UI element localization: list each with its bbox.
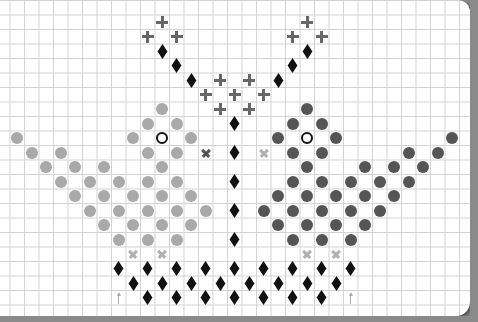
diamond-icon [228,204,242,218]
diamond-icon [155,276,169,290]
circle-light-icon [170,233,184,247]
circle-light-icon [170,146,184,160]
plus-icon [257,88,271,102]
circle-dark-icon [271,131,285,145]
circle-dark-icon [387,160,401,174]
diamond-icon [199,291,213,305]
cross-light-icon [126,247,140,261]
plus-icon [315,30,329,44]
diamond-icon [271,276,285,290]
circle-light-icon [155,189,169,203]
diamond-icon [228,262,242,276]
circle-light-icon [170,204,184,218]
circle-light-icon [141,204,155,218]
circle-dark-icon [358,189,372,203]
plus-icon [286,30,300,44]
circle-light-icon [68,160,82,174]
diamond-icon [257,262,271,276]
circle-dark-icon [329,131,343,145]
plus-icon [242,102,256,116]
circle-dark-icon [315,146,329,160]
diamond-icon [315,291,329,305]
diamond-icon [170,262,184,276]
plus-icon [141,30,155,44]
background-edge [470,0,478,322]
diamond-icon [141,262,155,276]
graph-paper-pattern [0,0,470,316]
arrow-up-icon [112,291,126,305]
circle-dark-icon [315,117,329,131]
circle-dark-icon [315,175,329,189]
circle-light-icon [126,189,140,203]
circle-light-icon [141,233,155,247]
circle-dark-icon [257,204,271,218]
circle-dark-icon [300,189,314,203]
background-edge-bottom [0,316,478,322]
circle-dark-icon [344,175,358,189]
circle-dark-icon [373,204,387,218]
diamond-icon [300,276,314,290]
circle-light-icon [25,146,39,160]
diamond-icon [257,291,271,305]
circle-dark-icon [445,131,459,145]
circle-light-icon [10,131,24,145]
diamond-icon [184,276,198,290]
circle-dark-icon [300,102,314,116]
circle-light-icon [184,189,198,203]
plus-icon [242,73,256,87]
diamond-icon [184,73,198,87]
circle-light-icon [112,233,126,247]
diamond-icon [271,73,285,87]
circle-dark-icon [315,204,329,218]
circle-dark-icon [286,204,300,218]
cross-dark-icon [199,146,213,160]
diamond-icon [112,262,126,276]
plus-icon [199,88,213,102]
circle-light-icon [199,204,213,218]
diamond-icon [126,276,140,290]
diamond-icon [228,291,242,305]
plus-icon [213,102,227,116]
circle-dark-icon [431,146,445,160]
circle-light-icon [155,218,169,232]
circle-light-icon [126,131,140,145]
circle-dark-icon [416,160,430,174]
diamond-icon [141,291,155,305]
circle-light-icon [97,189,111,203]
circle-light-icon [54,175,68,189]
diamond-icon [228,117,242,131]
diamond-icon [286,59,300,73]
circle-light-icon [184,131,198,145]
circle-dark-icon [387,189,401,203]
circle-dark-icon [286,146,300,160]
diamond-icon [242,276,256,290]
circle-dark-icon [402,146,416,160]
circle-dark-icon [402,175,416,189]
diamond-icon [300,44,314,58]
circle-dark-icon [344,204,358,218]
eye-ring-icon [155,131,169,145]
diamond-icon [155,44,169,58]
circle-light-icon [97,218,111,232]
circle-light-icon [54,146,68,160]
circle-dark-icon [329,218,343,232]
circle-dark-icon [373,175,387,189]
circle-light-icon [97,160,111,174]
circle-dark-icon [286,233,300,247]
circle-dark-icon [329,189,343,203]
circle-light-icon [112,175,126,189]
plus-icon [300,15,314,29]
circle-dark-icon [271,218,285,232]
circle-light-icon [184,218,198,232]
circle-light-icon [68,189,82,203]
plus-icon [155,15,169,29]
circle-light-icon [112,204,126,218]
circle-dark-icon [286,175,300,189]
diamond-icon [228,146,242,160]
circle-dark-icon [358,218,372,232]
circle-light-icon [141,175,155,189]
circle-light-icon [170,175,184,189]
diamond-icon [286,262,300,276]
circle-light-icon [141,146,155,160]
diamond-icon [170,291,184,305]
